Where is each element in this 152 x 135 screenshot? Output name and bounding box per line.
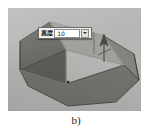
chevron-down-glyph	[83, 32, 87, 34]
figure-b: 高度 10 b)	[0, 0, 152, 135]
height-input-dialog[interactable]: 高度 10	[38, 27, 92, 39]
selection-point-marker[interactable]	[67, 81, 70, 84]
figure-caption: b)	[0, 113, 152, 127]
height-input-value: 10	[55, 30, 65, 37]
chevron-down-icon[interactable]	[81, 29, 89, 38]
trapezoidal-prism-model[interactable]	[8, 8, 141, 111]
height-input-field[interactable]: 10	[54, 29, 80, 38]
cad-3d-viewport[interactable]: 高度 10	[8, 8, 141, 111]
height-input-label: 高度	[40, 29, 53, 37]
